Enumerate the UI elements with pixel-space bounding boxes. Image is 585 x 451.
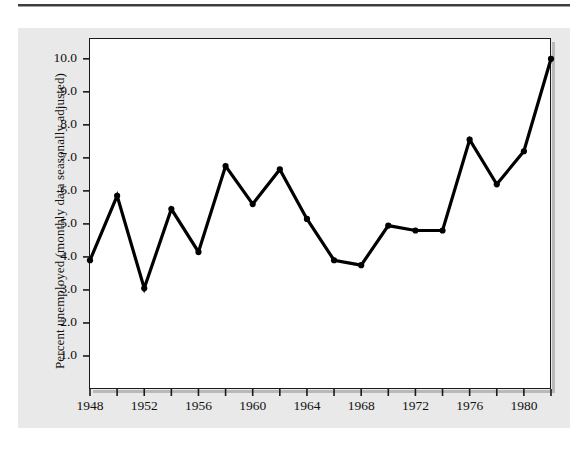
data-point-markers [87, 56, 554, 292]
y-axis-ticks [83, 59, 90, 356]
x-axis-ticks [90, 389, 551, 396]
unemployment-line [90, 59, 551, 288]
chart-canvas [0, 0, 585, 451]
